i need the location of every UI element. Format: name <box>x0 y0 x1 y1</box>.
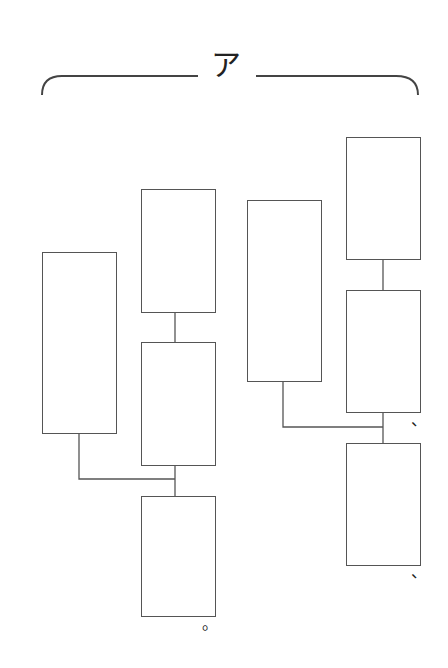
bracket-right-arm <box>256 76 418 95</box>
right-group-box-3 <box>346 290 421 413</box>
left-group-box-2 <box>141 189 216 313</box>
right-group-box-1 <box>247 200 322 382</box>
comma-mark-1: 、 <box>411 412 427 428</box>
bracket-label: ア <box>211 48 241 82</box>
period-mark: 。 <box>202 616 218 632</box>
bracket-left-arm <box>42 76 198 95</box>
right-group-box-4 <box>346 443 421 566</box>
right-group-box-2 <box>346 137 421 260</box>
comma-mark-2: 、 <box>411 564 427 580</box>
left-group-box-4 <box>141 496 216 617</box>
left-group-box-1 <box>42 252 117 434</box>
left-group-box-3 <box>141 342 216 466</box>
